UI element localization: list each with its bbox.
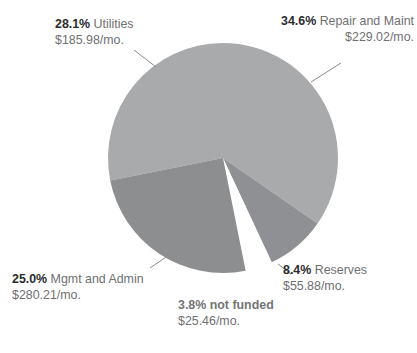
slice-name-mgmt-and-admin: Mgmt and Admin — [51, 272, 144, 286]
leader-line-utilities — [134, 50, 156, 67]
slice-label-mgmt-and-admin: 25.0% Mgmt and Admin $280.21/mo. — [12, 272, 144, 303]
leader-line-mgmt-and-admin — [150, 253, 172, 268]
slice-amount-repair-and-maint: $229.02/mo. — [228, 30, 414, 46]
slice-name-not-funded: not funded — [210, 298, 274, 312]
slice-amount-utilities: $185.98/mo. — [55, 33, 134, 49]
slice-percent-mgmt-and-admin: 25.0% — [12, 272, 47, 286]
slice-percent-reserves: 8.4% — [283, 263, 311, 277]
slice-percent-repair-and-maint: 34.6% — [281, 14, 316, 28]
slice-amount-not-funded: $25.46/mo. — [178, 314, 274, 330]
slice-label-repair-and-maint: 34.6% Repair and Maint $229.02/mo. — [228, 14, 414, 45]
leader-line-repair-and-maint — [311, 63, 341, 82]
slice-name-utilities: Utilities — [94, 17, 134, 31]
slice-label-not-funded: 3.8% not funded $25.46/mo. — [178, 298, 274, 329]
slice-name-repair-and-maint: Repair and Maint — [320, 14, 414, 28]
slice-name-reserves: Reserves — [315, 263, 367, 277]
slice-amount-reserves: $55.88/mo. — [283, 279, 367, 295]
slice-label-utilities: 28.1% Utilities $185.98/mo. — [55, 17, 134, 48]
pie-slice-utilities[interactable] — [108, 43, 223, 180]
slice-percent-utilities: 28.1% — [55, 17, 90, 31]
slice-percent-not-funded: 3.8% — [178, 298, 206, 312]
slice-amount-mgmt-and-admin: $280.21/mo. — [12, 288, 144, 304]
pie-chart-figure: 34.6% Repair and Maint $229.02/mo. 28.1%… — [0, 0, 417, 353]
slice-label-reserves: 8.4% Reserves $55.88/mo. — [283, 263, 367, 294]
